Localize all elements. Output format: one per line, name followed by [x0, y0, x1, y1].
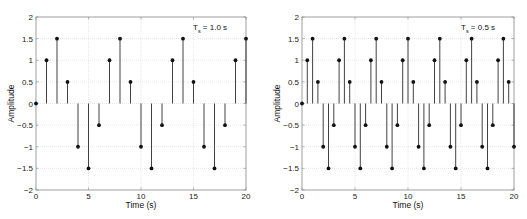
y-axis-label: Amplitude	[272, 84, 282, 122]
stem-marker	[396, 123, 400, 127]
y-tick-label: −2	[24, 186, 34, 195]
y-tick-label: −1	[24, 143, 34, 152]
sampling-period-annotation: Ts = 1.0 s	[193, 23, 227, 34]
y-tick-label: 1.5	[288, 35, 300, 44]
x-tick-label: 5	[86, 192, 91, 201]
y-tick-label: 0.5	[288, 78, 300, 87]
y-tick-label: 0.5	[22, 78, 34, 87]
stem-marker	[380, 80, 384, 84]
stem-marker	[316, 80, 320, 84]
stem-marker	[129, 80, 133, 84]
stem-marker	[496, 58, 500, 62]
y-tick-label: 0	[295, 100, 300, 109]
stem-marker	[327, 166, 331, 170]
stem-marker	[76, 145, 80, 149]
stem-marker	[192, 80, 196, 84]
stem-marker	[139, 145, 143, 149]
stem-marker	[348, 80, 352, 84]
stem-marker	[108, 58, 112, 62]
sampling-period-annotation: Ts = 0.5 s	[461, 23, 495, 34]
stem-marker	[202, 145, 206, 149]
y-tick-label: 1	[29, 56, 34, 65]
chart-sampling-0.5s: −2−1.5−1−0.500.511.5205101520Time (s)Amp…	[272, 13, 519, 210]
stem-marker	[470, 37, 474, 41]
y-tick-label: −2	[290, 186, 300, 195]
stem-marker	[305, 58, 309, 62]
stem-marker	[486, 166, 490, 170]
stem-marker	[406, 37, 410, 41]
stem-marker	[300, 102, 304, 106]
stem-marker	[454, 166, 458, 170]
stem-marker	[390, 166, 394, 170]
stem-marker	[171, 58, 175, 62]
stem-marker	[353, 145, 357, 149]
stem-marker	[55, 37, 59, 41]
stem-marker	[427, 123, 431, 127]
stem-marker	[332, 123, 336, 127]
stem-marker	[443, 80, 447, 84]
stem-marker	[449, 145, 453, 149]
y-tick-label: 2	[29, 13, 34, 22]
y-tick-label: 1	[295, 56, 300, 65]
y-tick-label: 0	[29, 100, 34, 109]
y-tick-label: −0.5	[283, 121, 299, 130]
stem-marker	[507, 80, 511, 84]
stem-marker	[411, 80, 415, 84]
stem-marker	[343, 37, 347, 41]
stem-marker	[512, 145, 516, 149]
stem-marker	[87, 166, 91, 170]
x-tick-label: 20	[510, 192, 519, 201]
stem-marker	[459, 123, 463, 127]
stem-marker	[502, 37, 506, 41]
stem-marker	[491, 123, 495, 127]
stem-marker	[464, 58, 468, 62]
x-tick-label: 15	[457, 192, 466, 201]
stem-marker	[475, 80, 479, 84]
x-axis-label: Time (s)	[393, 200, 424, 210]
stem-marker	[213, 166, 217, 170]
y-tick-label: −1.5	[17, 164, 33, 173]
x-axis-label: Time (s)	[126, 200, 157, 210]
stem-marker	[433, 58, 437, 62]
figure-canvas: −2−1.5−1−0.500.511.5205101520Time (s)Amp…	[0, 0, 527, 219]
stem-marker	[401, 58, 405, 62]
y-axis-label: Amplitude	[6, 84, 16, 122]
y-tick-label: −1	[290, 143, 300, 152]
tick-labels: −2−1.5−1−0.500.511.5205101520	[283, 13, 519, 201]
stem-marker	[337, 58, 341, 62]
stem-marker	[97, 123, 101, 127]
stem-marker	[358, 166, 362, 170]
stem-marker	[480, 145, 484, 149]
stem-marker	[244, 37, 248, 41]
stem-marker	[311, 37, 315, 41]
stem-marker	[66, 80, 70, 84]
chart-sampling-1s: −2−1.5−1−0.500.511.5205101520Time (s)Amp…	[6, 13, 251, 210]
stem-marker	[321, 145, 325, 149]
stem-marker	[150, 166, 154, 170]
stem-marker	[34, 102, 38, 106]
stem-marker	[374, 37, 378, 41]
stem-marker	[369, 58, 373, 62]
stem-marker	[45, 58, 49, 62]
x-tick-label: 20	[242, 192, 251, 201]
stem-marker	[234, 58, 238, 62]
stem-marker	[364, 123, 368, 127]
x-tick-label: 15	[189, 192, 198, 201]
x-tick-label: 0	[34, 192, 39, 201]
stem-marker	[385, 145, 389, 149]
stem-marker	[438, 37, 442, 41]
stem-marker	[422, 166, 426, 170]
stem-marker	[223, 123, 227, 127]
y-tick-label: 1.5	[22, 35, 34, 44]
y-tick-label: −0.5	[17, 121, 33, 130]
stem-marker	[181, 37, 185, 41]
x-tick-label: 5	[353, 192, 358, 201]
tick-labels: −2−1.5−1−0.500.511.5205101520	[17, 13, 251, 201]
stem-marker	[160, 123, 164, 127]
y-tick-label: −1.5	[283, 164, 299, 173]
x-tick-label: 0	[300, 192, 305, 201]
y-tick-label: 2	[295, 13, 300, 22]
stem-marker	[417, 145, 421, 149]
stem-marker	[118, 37, 122, 41]
